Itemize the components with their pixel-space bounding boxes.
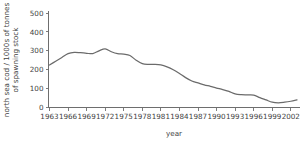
- x-axis-title: year: [166, 129, 182, 138]
- x-tick-label: 1999: [263, 112, 282, 121]
- y-tick-label: 200: [30, 65, 44, 74]
- y-tick-label: 100: [30, 84, 44, 93]
- x-tick-label: 1984: [170, 112, 189, 121]
- y-axis-title-line1: north sea cod / 1000s of tonnes: [2, 3, 11, 118]
- x-axis-tick-labels: 1963196619691972197519781981198419871990…: [40, 112, 300, 121]
- x-tick-label: 2002: [282, 112, 300, 121]
- y-tick-label: 400: [30, 28, 44, 37]
- x-tick-label: 1978: [133, 112, 152, 121]
- x-tick-label: 1990: [207, 112, 226, 121]
- y-tick-label: 500: [30, 9, 44, 18]
- chart-figure: 0100200300400500 19631966196919721975197…: [0, 0, 308, 141]
- chart-axes: [49, 11, 301, 108]
- x-tick-label: 1987: [189, 112, 207, 121]
- line-chart: 0100200300400500 19631966196919721975197…: [0, 0, 308, 141]
- y-axis-title-line2: of spawning stock: [11, 27, 20, 93]
- data-series-line: [50, 49, 298, 103]
- x-tick-label: 1996: [245, 112, 264, 121]
- x-tick-label: 1993: [226, 112, 244, 121]
- x-tick-label: 1972: [96, 112, 114, 121]
- plot-area: 0100200300400500 19631966196919721975197…: [2, 3, 300, 138]
- x-tick-label: 1975: [115, 112, 133, 121]
- y-tick-label: 300: [30, 46, 44, 55]
- x-tick-label: 1966: [59, 112, 78, 121]
- x-tick-label: 1969: [77, 112, 96, 121]
- y-axis-tick-labels: 0100200300400500: [30, 9, 44, 113]
- x-axis-ticks: [50, 108, 291, 111]
- x-tick-label: 1981: [152, 112, 170, 121]
- x-tick-label: 1963: [40, 112, 58, 121]
